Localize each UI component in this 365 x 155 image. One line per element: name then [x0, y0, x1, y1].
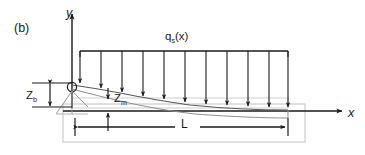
zm-label-sub: m: [121, 99, 127, 107]
zb-label-sub: b: [33, 96, 37, 104]
zm-label: Zm: [114, 92, 127, 107]
x-axis-label: x: [348, 106, 354, 120]
y-axis-label: y: [66, 6, 72, 20]
zb-dimension: [32, 83, 72, 107]
zb-label: Zb: [26, 89, 37, 104]
diagram-canvas: [0, 0, 365, 155]
span-label: L: [181, 117, 188, 131]
figure-panel: (b) qs(x) Zb Zm L y x: [0, 0, 365, 155]
zb-label-base: Z: [26, 89, 33, 101]
load-label: qs(x): [165, 30, 188, 45]
load-bar: [80, 51, 288, 57]
deflection-curves: [72, 85, 288, 118]
load-label-arg: (x): [175, 30, 188, 42]
zm-label-base: Z: [114, 92, 121, 104]
panel-label: (b): [14, 21, 29, 35]
